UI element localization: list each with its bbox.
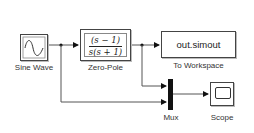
scope-label: Scope xyxy=(204,113,240,122)
to-workspace-label: To Workspace xyxy=(161,61,236,70)
zero-pole-numerator: (s − 1) xyxy=(85,35,126,45)
sine-wave-icon xyxy=(21,35,47,60)
sine-wave-block[interactable] xyxy=(20,34,48,61)
mux-label: Mux xyxy=(158,113,184,122)
scope-block[interactable] xyxy=(210,82,234,106)
to-workspace-variable: out.simout xyxy=(162,39,235,50)
scope-screen-icon xyxy=(215,87,231,99)
sine-wave-label: Sine Wave xyxy=(10,63,58,72)
zero-pole-label: Zero-Pole xyxy=(80,63,131,72)
to-workspace-block[interactable]: out.simout xyxy=(161,31,236,58)
zero-pole-denominator: s(s + 1) xyxy=(85,47,126,57)
mux-block[interactable] xyxy=(168,79,173,110)
zero-pole-block[interactable]: (s − 1) s(s + 1) xyxy=(80,29,131,61)
zero-pole-inner: (s − 1) s(s + 1) xyxy=(84,33,127,57)
